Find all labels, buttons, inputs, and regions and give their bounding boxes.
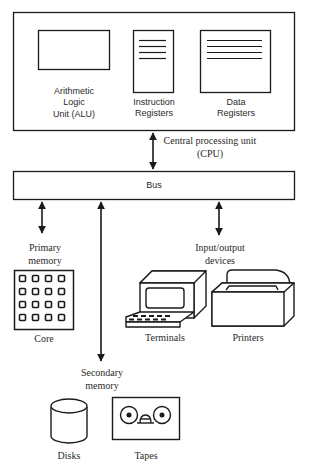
- primary-memory-label: Primary memory: [10, 242, 80, 267]
- disks-label: Disks: [44, 450, 94, 463]
- data-registers-label: Data Registers: [200, 97, 272, 120]
- secondary-memory-label: Secondary memory: [66, 367, 138, 392]
- instruction-registers-label: Instruction Registers: [118, 97, 190, 120]
- terminals-label: Terminals: [135, 332, 195, 345]
- core-label: Core: [14, 333, 74, 346]
- diagram-canvas: [0, 0, 309, 470]
- instruction-registers-icon: [134, 31, 174, 93]
- cpu-label: Central processing unit (CPU): [158, 135, 262, 160]
- io-devices-label: Input/output devices: [180, 242, 260, 267]
- data-registers-icon: [201, 31, 271, 93]
- bus-label: Bus: [13, 180, 295, 191]
- alu-label: Arithmetic Logic Unit (ALU): [28, 86, 120, 120]
- disk-icon: [51, 399, 87, 443]
- printers-label: Printers: [218, 332, 278, 345]
- alu-icon: [39, 31, 110, 70]
- tapes-label: Tapes: [121, 450, 171, 463]
- printer-icon: [212, 270, 294, 326]
- terminal-icon: [126, 271, 206, 327]
- core-memory-icon: [15, 271, 74, 330]
- tape-icon: [113, 398, 180, 440]
